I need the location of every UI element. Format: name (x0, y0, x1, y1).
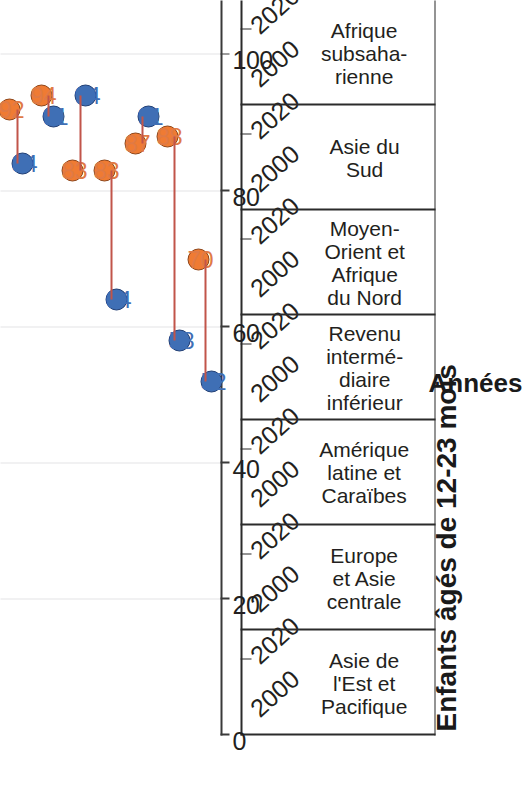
value-axis-tick (220, 325, 229, 327)
connector-amerique-latine (79, 95, 81, 170)
year-tick (240, 553, 251, 555)
year-label-2000-revenu-intermediaire: 2000 (244, 349, 305, 408)
category-label-moyen-orient: Moyen- Orient et Afrique du Nord (298, 210, 430, 315)
category-label-text: Moyen- Orient et Afrique du Nord (324, 216, 405, 308)
data-label-2020-asie-du-sud: 88 (156, 122, 182, 150)
data-label-2000-asie-du-sud: 58 (168, 326, 194, 354)
year-tick (240, 238, 251, 240)
category-label-afrique-subsaharienne: Afrique subsaha- rienne (298, 0, 430, 105)
category-label-europe-asie-centrale: Europe et Asie centrale (298, 525, 430, 630)
gridline (0, 598, 220, 599)
category-axis-block: 20002020Asie de l'Est et Pacifique200020… (240, 0, 435, 735)
value-axis-tick-label: 0 (232, 726, 245, 755)
data-label-2000-amerique-latine: 94 (74, 81, 100, 109)
value-axis-tick (220, 734, 229, 736)
connector-asie-est-pacifique (16, 109, 18, 163)
data-label-2020-amerique-latine: 83 (61, 156, 87, 184)
year-label-2020-afrique-subsaharienne: 2020 (244, 0, 305, 40)
data-label-2000-revenu-intermediaire: 64 (105, 285, 131, 313)
value-axis-tick (220, 461, 229, 463)
year-label-2020-asie-est-pacifique: 2020 (244, 611, 305, 670)
data-label-2020-europe-asie-centrale: 94 (30, 81, 56, 109)
data-label-2000-afrique-subsaharienne: 52 (200, 367, 226, 395)
category-label-text: Amérique latine et Caraïbes (319, 438, 409, 507)
data-label-2020-revenu-intermediaire: 83 (93, 156, 119, 184)
year-label-2000-moyen-orient: 2000 (244, 244, 305, 303)
year-tick (240, 658, 251, 660)
category-label-text: Europe et Asie centrale (327, 543, 402, 612)
category-axis-top-rule (240, 0, 242, 735)
category-label-text: Asie du Sud (329, 134, 399, 180)
connector-asie-du-sud (173, 136, 175, 340)
category-label-asie-est-pacifique: Asie de l'Est et Pacifique (298, 630, 430, 735)
year-tick (240, 133, 251, 135)
category-axis-title: Années (428, 368, 522, 399)
value-axis-tick-label: 20 (232, 590, 259, 619)
gridline (0, 462, 220, 463)
value-axis-title: Enfants âgés de 12-23 mois (430, 0, 462, 731)
value-axis-tick-label: 80 (232, 182, 259, 211)
year-label-2020-asie-du-sud: 2020 (244, 86, 305, 145)
category-label-asie-du-sud: Asie du Sud (298, 105, 430, 210)
category-label-amerique-latine: Amérique latine et Caraïbes (298, 420, 430, 525)
year-tick (240, 448, 251, 450)
plot-area (0, 0, 220, 735)
data-label-2000-asie-est-pacifique: 84 (11, 149, 37, 177)
connector-afrique-subsaharienne (204, 259, 206, 382)
category-label-revenu-intermediaire: Revenu intermé- diaire inférieur (298, 315, 430, 420)
value-axis-tick-label: 60 (232, 318, 259, 347)
year-label-2020-amerique-latine: 2020 (244, 401, 305, 460)
year-tick (240, 28, 251, 30)
category-label-text: Revenu intermé- diaire inférieur (325, 321, 402, 413)
connector-europe-asie-centrale (47, 95, 49, 115)
year-label-2020-europe-asie-centrale: 2020 (244, 506, 305, 565)
value-axis-tick (220, 53, 229, 55)
category-label-text: Afrique subsaha- rienne (321, 18, 407, 87)
value-axis-tick (220, 189, 229, 191)
value-axis-tick-label: 40 (232, 454, 259, 483)
data-label-2020-moyen-orient: 87 (124, 129, 150, 157)
data-label-2020-afrique-subsaharienne: 70 (187, 245, 213, 273)
value-axis-tick-label: 100 (232, 45, 272, 74)
category-label-text: Asie de l'Est et Pacifique (321, 648, 407, 717)
value-axis-tick (220, 597, 229, 599)
data-label-2020-asie-est-pacifique: 92 (0, 95, 24, 123)
gridline (0, 53, 220, 54)
year-label-2000-asie-est-pacifique: 2000 (244, 664, 305, 723)
connector-revenu-intermediaire (110, 170, 112, 299)
connector-moyen-orient (141, 116, 143, 143)
